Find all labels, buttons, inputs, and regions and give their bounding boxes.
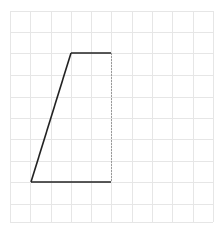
grid-diagram xyxy=(0,0,224,231)
